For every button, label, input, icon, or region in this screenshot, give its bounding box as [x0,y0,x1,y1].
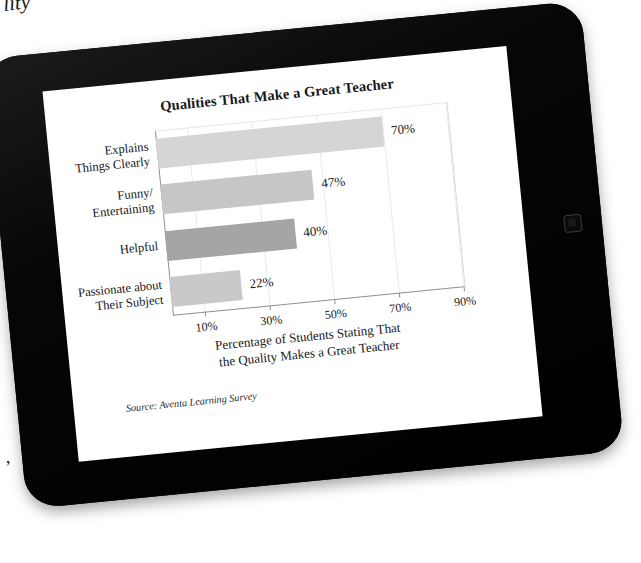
x-axis-tick-label: 70% [380,299,421,318]
home-button-icon[interactable] [563,214,583,234]
bar-value-label: 70% [390,121,415,139]
bar-chart: Qualities That Make a Great Teacher 70%E… [43,46,543,462]
tablet-screen: Qualities That Make a Great Teacher 70%E… [43,46,543,462]
x-axis-tick-label: 90% [444,292,485,311]
plot-area: 70%ExplainsThings Clearly47%Funny/Entert… [155,102,464,315]
chart-source: Source: Aventa Learning Survey [125,390,257,414]
x-axis-tick-label: 10% [186,318,227,337]
tablet-device: Qualities That Make a Great Teacher 70%E… [0,0,641,557]
x-axis-caption: Percentage of Students Stating That the … [128,311,490,379]
tablet-bezel: Qualities That Make a Great Teacher 70%E… [0,1,624,509]
category-label-line: Helpful [54,239,159,264]
category-label: Passionate aboutTheir Subject [58,278,164,318]
home-button-inner [567,218,576,227]
x-axis-tick-label: 30% [251,311,292,330]
x-axis-tick-label: 50% [315,305,356,324]
bar-value-label: 40% [302,222,327,240]
category-label: ExplainsThings Clearly [44,140,150,180]
category-label: Funny/Entertaining [49,186,155,226]
bar-value-label: 47% [321,174,346,192]
page-text-fragment-top: lity [2,0,31,17]
bar-value-label: 22% [249,274,274,292]
page-text-fragment-bottom: , [4,446,11,468]
category-label: Helpful [54,239,159,264]
